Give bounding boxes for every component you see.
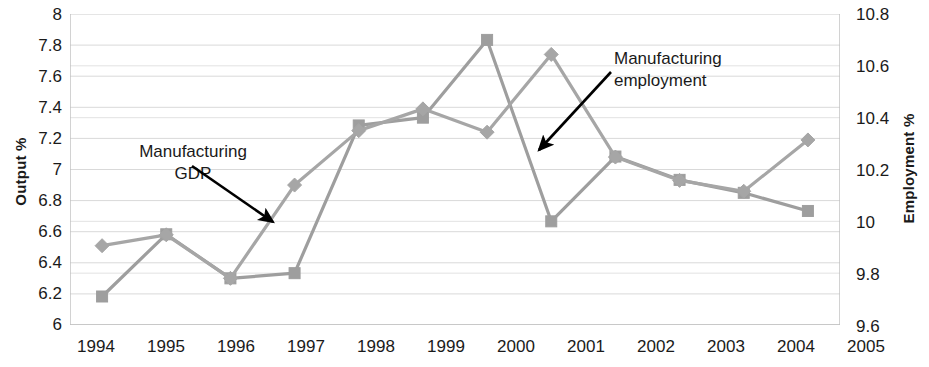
y-axis-left-tick: 6.8 — [16, 192, 62, 209]
y-axis-left-tick: 7.2 — [16, 130, 62, 147]
annotation-manufacturing-employment: Manufacturing employment — [614, 48, 804, 92]
y-axis-left-tick: 6 — [16, 316, 62, 333]
x-axis-tick: 1997 — [271, 338, 341, 356]
x-axis-tick: 2005 — [831, 338, 901, 356]
x-axis-tick: 2004 — [761, 338, 831, 356]
y-axis-left-tick: 6.6 — [16, 223, 62, 240]
x-axis-tick: 2001 — [551, 338, 621, 356]
y-axis-right-tick: 10 — [856, 214, 908, 231]
y-axis-right-tick: 10.2 — [856, 162, 908, 179]
y-axis-left-tick: 7.4 — [16, 99, 62, 116]
y-axis-left-tick: 7 — [16, 161, 62, 178]
annotation-manufacturing-gdp: Manufacturing GDP — [108, 141, 278, 185]
y-axis-left-tick: 6.2 — [16, 285, 62, 302]
x-axis-tick: 2003 — [691, 338, 761, 356]
y-axis-right-tick: 9.6 — [856, 318, 908, 335]
x-axis-tick: 1996 — [201, 338, 271, 356]
x-axis-tick: 2002 — [621, 338, 691, 356]
y-axis-right-tick: 10.6 — [856, 58, 908, 75]
annotation-employment-line1: Manufacturing — [614, 48, 804, 70]
x-axis-tick: 1999 — [411, 338, 481, 356]
y-axis-left-tick: 7.6 — [16, 68, 62, 85]
y-axis-left-tick: 7.8 — [16, 37, 62, 54]
y-axis-right-tick: 10.8 — [856, 6, 908, 23]
annotation-gdp-line1: Manufacturing — [108, 141, 278, 163]
chart-container: Output % Employment % 8 7.8 7.6 7.4 7.2 … — [0, 0, 929, 367]
x-axis-tick: 2000 — [481, 338, 551, 356]
annotation-gdp-line2: GDP — [108, 163, 278, 185]
y-axis-left-tick: 8 — [16, 6, 62, 23]
x-axis-tick: 1995 — [131, 338, 201, 356]
y-axis-right-tick: 9.8 — [856, 266, 908, 283]
y-axis-left-tick: 6.4 — [16, 254, 62, 271]
annotation-employment-line2: employment — [614, 70, 804, 92]
y-axis-right-tick: 10.4 — [856, 110, 908, 127]
x-axis-tick: 1994 — [61, 338, 131, 356]
x-axis-tick: 1998 — [341, 338, 411, 356]
